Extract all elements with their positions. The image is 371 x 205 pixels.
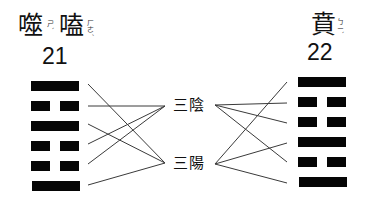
left-hexagram-line-3 bbox=[31, 121, 79, 131]
right-hexagram-line-3 bbox=[298, 117, 346, 127]
connector-left-line-5 bbox=[88, 106, 165, 164]
connector-left-line-6 bbox=[88, 163, 165, 185]
left-hexagram-line-5 bbox=[31, 161, 79, 171]
connector-left-line-1 bbox=[88, 84, 165, 163]
right-hexagram-line-4 bbox=[298, 137, 346, 147]
yang-group-label: 三陽 bbox=[173, 155, 205, 171]
connector-right-line-1 bbox=[215, 82, 287, 164]
left-hexagram-line-1 bbox=[31, 81, 79, 91]
left-hexagram-line-6 bbox=[32, 181, 80, 191]
connector-right-line-6 bbox=[215, 164, 287, 183]
right-hexagram-line-1 bbox=[298, 77, 346, 87]
right-hexagram-line-6 bbox=[299, 177, 347, 187]
left-hexagram-line-4 bbox=[31, 141, 79, 151]
connector-left-line-3 bbox=[88, 124, 165, 163]
left-hexagram-line-2 bbox=[31, 101, 79, 111]
yin-group-label: 三陰 bbox=[173, 97, 205, 113]
connector-left-line-4 bbox=[88, 106, 165, 144]
right-hexagram-line-5 bbox=[298, 157, 346, 167]
right-hexagram-line-2 bbox=[298, 97, 346, 107]
connector-right-line-2 bbox=[215, 103, 287, 105]
